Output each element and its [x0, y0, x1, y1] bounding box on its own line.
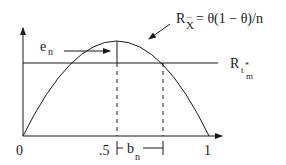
x-tick-1: 1	[204, 143, 211, 158]
curve-label-arrow	[149, 24, 170, 39]
hline-label-t: t	[241, 65, 244, 75]
hline-label-star: *	[245, 61, 249, 70]
risk-diagram: 0 .5 1 b n e n R ¯ X = θ(1 − θ)/n R t * …	[0, 0, 286, 165]
en-label: e	[40, 39, 46, 54]
curve-label-sub: X	[186, 19, 194, 31]
bn-sub: n	[135, 151, 140, 162]
en-sub: n	[48, 46, 53, 57]
curve-label-R: R	[176, 11, 186, 26]
hline-label-R: R	[230, 56, 240, 71]
hline-label-m: m	[246, 71, 253, 81]
x-tick-0: 0	[16, 143, 23, 158]
curve-label-formula: = θ(1 − θ)/n	[196, 11, 263, 27]
bn-label: b	[127, 141, 134, 156]
x-tick-half: .5	[99, 143, 110, 158]
